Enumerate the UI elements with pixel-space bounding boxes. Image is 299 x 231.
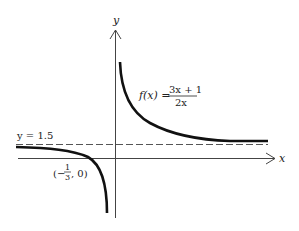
intercept-close: , 0): [71, 168, 88, 179]
intercept-open: (−: [53, 168, 65, 179]
function-prefix: f(x) =: [138, 89, 171, 102]
curve-left-branch: [16, 147, 107, 213]
x-axis-label: x: [279, 152, 286, 165]
intercept-den: 3: [65, 173, 70, 182]
function-graph: y x y = 1.5 f(x) = 3x + 1 2x (− 1 3 , 0): [0, 0, 299, 231]
function-numerator: 3x + 1: [169, 84, 202, 95]
asymptote-label: y = 1.5: [16, 130, 53, 141]
intercept-num: 1: [65, 163, 70, 172]
function-denominator: 2x: [175, 97, 187, 108]
y-axis-label: y: [112, 14, 120, 27]
